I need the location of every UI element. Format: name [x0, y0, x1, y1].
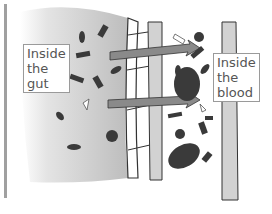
- blood-label-line1: Inside: [217, 55, 256, 70]
- capillary-wall-2: [222, 22, 238, 200]
- left-border-bar: [4, 4, 7, 198]
- blood-label-line3: blood: [217, 85, 256, 100]
- gut-label-line1: Inside: [27, 46, 66, 61]
- gut-region: [20, 7, 128, 182]
- label-inside-blood: Inside the blood: [213, 53, 260, 102]
- diagram: Inside the gut Inside the blood: [0, 0, 272, 214]
- blood-label-line2: the: [217, 70, 256, 85]
- gut-label-line2: the: [27, 61, 66, 76]
- label-inside-gut: Inside the gut: [23, 44, 70, 93]
- gut-wall-left: [126, 18, 138, 178]
- gut-blood-illustration: [0, 0, 272, 214]
- gut-label-line3: gut: [27, 76, 66, 91]
